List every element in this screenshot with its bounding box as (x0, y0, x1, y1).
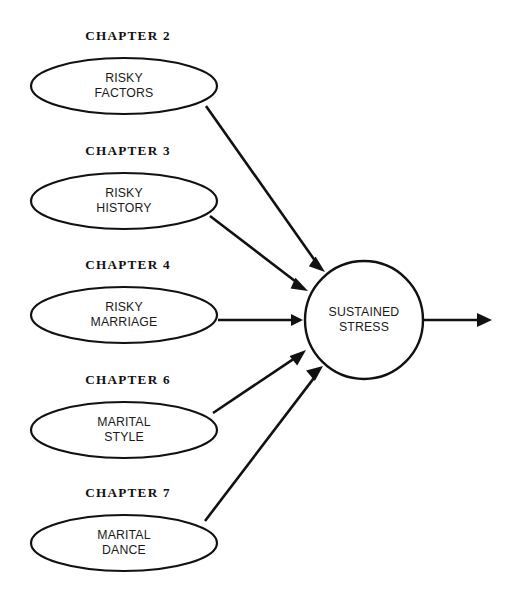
arrowhead-icon (309, 257, 325, 272)
edge-line (213, 356, 299, 413)
node-label-line2: MARRIAGE (91, 315, 158, 329)
chapter-label: CHAPTER 4 (85, 257, 171, 272)
node-label-line2: STRESS (339, 320, 389, 334)
edge-stress-output (423, 313, 492, 327)
edge-dance-to-stress (205, 366, 323, 521)
node-risky-factors[interactable]: RISKY FACTORS CHAPTER 2 (31, 28, 217, 114)
node-label-line1: MARITAL (97, 415, 150, 429)
flow-diagram: RISKY FACTORS CHAPTER 2 RISKY HISTORY CH… (0, 0, 519, 603)
node-sustained-stress[interactable]: SUSTAINED STRESS (305, 261, 423, 379)
chapter-label: CHAPTER 6 (85, 372, 171, 387)
edge-line (205, 375, 317, 521)
node-label-line1: RISKY (105, 71, 143, 85)
node-label-line2: HISTORY (96, 201, 151, 215)
node-risky-history[interactable]: RISKY HISTORY CHAPTER 3 (31, 143, 217, 229)
chapter-label: CHAPTER 3 (85, 143, 171, 158)
arrowhead-icon (291, 314, 303, 326)
node-label-line1: SUSTAINED (329, 305, 400, 319)
chapter-label: CHAPTER 7 (85, 485, 171, 500)
node-label-line2: FACTORS (95, 86, 154, 100)
arrowhead-icon (290, 350, 306, 365)
node-label-line1: RISKY (105, 300, 143, 314)
edge-marriage-to-stress (218, 314, 303, 326)
arrowhead-icon (306, 366, 323, 381)
edge-style-to-stress (213, 350, 306, 413)
node-label-line1: MARITAL (97, 528, 150, 542)
diagram-canvas: RISKY FACTORS CHAPTER 2 RISKY HISTORY CH… (0, 0, 519, 603)
node-label-line1: RISKY (105, 186, 143, 200)
edge-factors-to-stress (206, 106, 325, 272)
edge-line (206, 106, 318, 266)
chapter-label: CHAPTER 2 (85, 28, 171, 43)
arrowhead-icon (477, 313, 492, 327)
edge-history-to-stress (210, 216, 308, 291)
node-label-line2: DANCE (102, 543, 146, 557)
node-marital-style[interactable]: MARITAL STYLE CHAPTER 6 (31, 372, 217, 458)
node-marital-dance[interactable]: MARITAL DANCE CHAPTER 7 (31, 485, 217, 571)
node-label-line2: STYLE (104, 430, 144, 444)
edge-line (210, 216, 301, 285)
node-risky-marriage[interactable]: RISKY MARRIAGE CHAPTER 4 (31, 257, 217, 343)
